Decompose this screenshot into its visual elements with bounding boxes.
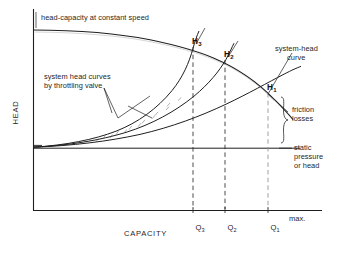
- x-tick-label-q3: Q3: [187, 214, 205, 241]
- system-head-curve-label-line2: curve: [287, 53, 305, 62]
- friction-losses-label-line2: losses: [292, 114, 313, 123]
- leader-throttling-valve: [104, 88, 152, 118]
- operating-point-label-h1: H1: [258, 74, 276, 101]
- y-axis-title: HEAD: [11, 90, 20, 136]
- throttling-label-line2: by throttling valve: [44, 81, 102, 90]
- h3-subscript: 3: [198, 41, 201, 47]
- static-pressure-label-line1: static: [294, 143, 312, 152]
- x-tick-label-max: max.: [289, 214, 305, 223]
- friction-losses-brace: [281, 97, 288, 143]
- q1-subscript: 1: [276, 227, 279, 233]
- friction-losses-label-line1: friction: [292, 105, 314, 114]
- q3-subscript: 3: [201, 227, 204, 233]
- x-axis-title: CAPACITY: [124, 229, 167, 238]
- q2-subscript: 2: [233, 227, 236, 233]
- h1-subscript: 1: [273, 87, 276, 93]
- system-head-curve-label-line1: system-head: [275, 44, 318, 53]
- throttling-label-line1: system head curves: [44, 72, 111, 81]
- static-pressure-label-line2: pressure: [294, 152, 323, 161]
- x-tick-label-q2: Q2: [219, 214, 237, 241]
- operating-point-label-h2: H2: [215, 41, 233, 68]
- static-pressure-label-line3: or head: [294, 161, 319, 170]
- x-tick-label-q1: Q1: [262, 214, 280, 241]
- head-capacity-label: head-capacity at constant speed: [41, 13, 149, 22]
- operating-point-label-h3: H3: [183, 28, 201, 55]
- throttled-curve-q2: [33, 43, 234, 147]
- head-capacity-curve-shadow: [35, 32, 274, 101]
- h2-subscript: 2: [230, 54, 233, 60]
- pump-system-head-diagram: head-capacity at constant speed system h…: [0, 0, 348, 258]
